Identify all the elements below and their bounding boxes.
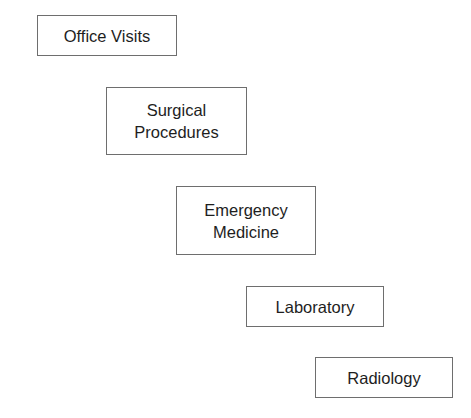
box-emergency-medicine: Emergency Medicine xyxy=(176,186,316,255)
box-label: Laboratory xyxy=(276,296,355,318)
box-label: Surgical Procedures xyxy=(134,99,218,143)
box-radiology: Radiology xyxy=(315,357,453,398)
box-laboratory: Laboratory xyxy=(246,286,384,327)
box-label: Office Visits xyxy=(64,25,151,47)
box-surgical-procedures: Surgical Procedures xyxy=(106,87,247,155)
staircase-diagram: Office Visits Surgical Procedures Emerge… xyxy=(0,0,471,418)
box-label: Radiology xyxy=(347,367,420,389)
box-office-visits: Office Visits xyxy=(37,15,177,56)
box-label: Emergency Medicine xyxy=(204,199,287,243)
